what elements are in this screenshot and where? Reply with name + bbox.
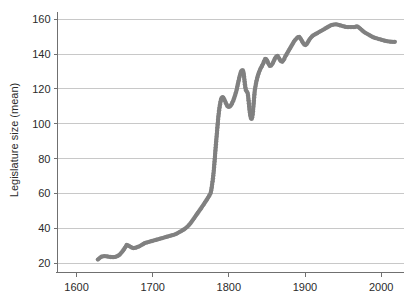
data-point — [393, 40, 397, 44]
y-tick-label-80: 80 — [38, 153, 50, 165]
y-tick-label-100: 100 — [32, 118, 50, 130]
y-tick-label-60: 60 — [38, 187, 50, 199]
chart-background — [0, 0, 414, 304]
x-tick-label-1900: 1900 — [293, 281, 317, 293]
y-tick-label-40: 40 — [38, 222, 50, 234]
y-tick-label-160: 160 — [32, 13, 50, 25]
y-tick-label-120: 120 — [32, 83, 50, 95]
y-tick-label-20: 20 — [38, 257, 50, 269]
y-axis-title: Legislature size (mean) — [8, 83, 20, 197]
x-tick-label-1800: 1800 — [217, 281, 241, 293]
y-tick-label-140: 140 — [32, 48, 50, 60]
legislature-size-line-chart: 20406080100120140160 1600170018001900200… — [0, 0, 414, 304]
chart-figure: 20406080100120140160 1600170018001900200… — [0, 0, 414, 304]
x-tick-label-1700: 1700 — [140, 281, 164, 293]
x-tick-label-1600: 1600 — [64, 281, 88, 293]
x-tick-label-2000: 2000 — [369, 281, 393, 293]
